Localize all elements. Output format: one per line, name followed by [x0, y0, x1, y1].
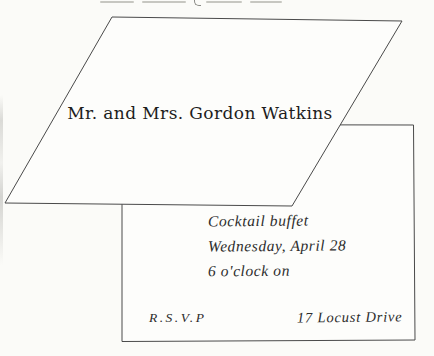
handwritten-note-line: 6 o'clock on: [208, 262, 290, 281]
invitation-name: Mr. and Mrs. Gordon Watkins: [60, 103, 340, 123]
handwritten-note-line: Cocktail buffet: [208, 212, 309, 231]
cards-outline: [0, 0, 434, 356]
handwritten-note-line: Wednesday, April 28: [208, 236, 347, 255]
address-line: 17 Locust Drive: [297, 308, 403, 326]
rsvp-label: R.S.V.P: [149, 310, 206, 326]
scanned-page: Mr. and Mrs. Gordon Watkins Cocktail buf…: [0, 0, 434, 356]
